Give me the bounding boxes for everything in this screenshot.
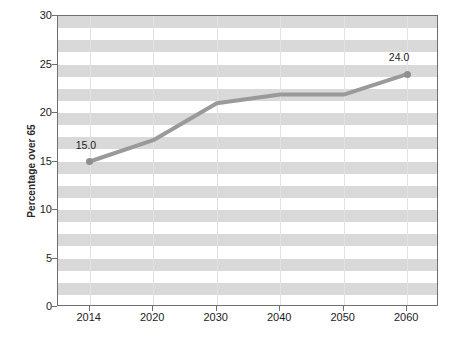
- x-tick-label: 2040: [249, 312, 309, 323]
- x-tick-label: 2060: [376, 312, 436, 323]
- data-point-label: 15.0: [76, 140, 96, 151]
- x-tick-label: 2030: [186, 312, 246, 323]
- plot-area: 15.024.0: [57, 15, 438, 306]
- line-path: [90, 74, 408, 161]
- line-chart: Percentage over 65 051015202530 15.024.0…: [0, 0, 466, 343]
- data-series-layer: 15.024.0: [58, 16, 437, 305]
- data-point-label: 24.0: [389, 52, 409, 63]
- x-tick-label: 2050: [313, 312, 373, 323]
- x-tick-label: 2020: [122, 312, 182, 323]
- data-point-marker: [404, 71, 411, 78]
- series-line: [58, 16, 438, 306]
- x-axis-tick-labels: 201420202030204020502060: [57, 312, 438, 332]
- y-axis-tick-marks: [0, 15, 57, 306]
- x-tick-label: 2014: [59, 312, 119, 323]
